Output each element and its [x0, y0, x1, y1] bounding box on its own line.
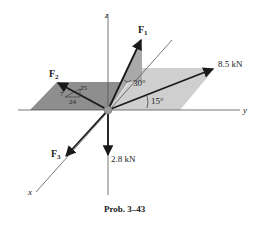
- y-axis-label: y: [242, 105, 247, 115]
- angle-30-label: 30°: [133, 78, 146, 88]
- origin-point: [104, 106, 112, 114]
- f5-magnitude-label: 2.8 kN: [111, 154, 136, 164]
- slope-run-label: 24: [69, 98, 77, 106]
- slope-rise-label: 7: [60, 90, 64, 98]
- figure-caption: Prob. 3–43: [104, 204, 146, 214]
- x-axis: [36, 40, 172, 192]
- f1-label: F1: [138, 24, 148, 37]
- angle-15-label: 15°: [151, 96, 164, 106]
- f3-label: F3: [51, 148, 61, 161]
- f2-label: F2: [49, 68, 59, 81]
- force-diagram: z y x F1 F2 F3 8.5 kN 2.8 kN 30° 15° 25 …: [0, 0, 258, 227]
- f3-arrow: [66, 110, 108, 156]
- f4-magnitude-label: 8.5 kN: [218, 59, 243, 69]
- slope-hyp-label: 25: [80, 84, 88, 92]
- x-axis-label: x: [27, 187, 32, 197]
- z-axis-label: z: [104, 10, 109, 20]
